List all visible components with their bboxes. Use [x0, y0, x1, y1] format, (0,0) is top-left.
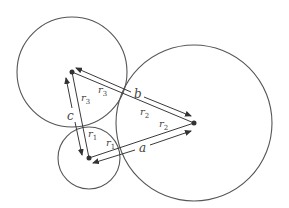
arrow-b-right — [144, 97, 191, 116]
label-c: c — [67, 109, 74, 123]
arrow-a-right — [150, 131, 191, 145]
label-r2-on-a: r2 — [159, 118, 168, 132]
label-r3-on-c: r3 — [81, 92, 90, 106]
label-r2-on-b: r2 — [140, 106, 149, 120]
arrow-a-left — [93, 150, 135, 163]
arrow-c-top — [66, 78, 72, 108]
label-b: b — [134, 87, 142, 101]
center-point-3 — [70, 70, 75, 75]
side-b — [72, 72, 194, 123]
side-c — [72, 72, 89, 158]
center-point-2 — [192, 121, 197, 126]
label-a: a — [139, 141, 146, 155]
label-r1-on-c: r1 — [88, 128, 97, 142]
tangent-circles-diagram: b a c r3 r3 r2 r2 r1 r1 — [0, 0, 289, 208]
center-point-1 — [87, 156, 92, 161]
arrow-b-left — [76, 68, 131, 92]
